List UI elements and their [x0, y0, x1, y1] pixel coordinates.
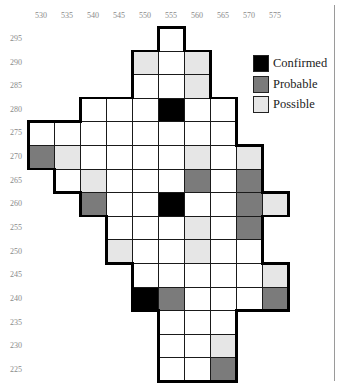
grid-cell — [184, 192, 211, 217]
grid-cell — [184, 239, 211, 264]
grid-cell — [210, 310, 237, 335]
grid-cell — [210, 263, 237, 288]
grid-cell — [210, 145, 237, 170]
grid-cell — [106, 169, 133, 194]
y-label: 275 — [4, 128, 28, 138]
y-label: 285 — [4, 81, 28, 91]
grid-cell — [132, 51, 159, 76]
grid-cell — [158, 334, 185, 359]
grid-cell — [184, 145, 211, 170]
confirmed-swatch-icon — [253, 55, 269, 72]
outline-segment — [131, 286, 134, 312]
outline-segment — [235, 120, 238, 146]
y-label: 265 — [4, 176, 28, 186]
outline-segment — [235, 309, 238, 335]
grid-cell — [54, 145, 81, 170]
outline-segment — [79, 215, 108, 218]
grid-cell — [210, 357, 237, 382]
grid-cell — [80, 192, 107, 217]
x-label: 550 — [132, 11, 158, 21]
outline-segment — [183, 50, 212, 53]
grid-cell — [158, 145, 185, 170]
x-label: 575 — [262, 11, 288, 21]
grid-cell — [158, 121, 185, 146]
x-label: 540 — [80, 11, 106, 21]
grid-cell — [132, 121, 159, 146]
outline-segment — [287, 286, 290, 312]
grid-cell — [210, 287, 237, 312]
outline-segment — [27, 120, 30, 146]
outline-segment — [209, 380, 238, 383]
outline-segment — [261, 168, 264, 194]
outline-segment — [261, 262, 290, 265]
grid-cell — [210, 192, 237, 217]
y-label: 250 — [4, 247, 28, 257]
outline-segment — [157, 26, 160, 52]
outline-segment — [105, 97, 134, 100]
x-label: 570 — [236, 11, 262, 21]
grid-cell — [262, 192, 289, 217]
grid-cell — [184, 121, 211, 146]
outline-segment — [235, 309, 264, 312]
grid-cell — [158, 357, 185, 382]
grid-cell — [184, 334, 211, 359]
grid-cell — [210, 216, 237, 241]
grid-cell — [184, 51, 211, 76]
grid-cell — [54, 121, 81, 146]
grid-cell — [184, 216, 211, 241]
y-label: 225 — [4, 365, 28, 375]
outline-segment — [235, 356, 238, 382]
grid-cell — [236, 239, 263, 264]
outline-segment — [287, 191, 290, 217]
grid-cell — [106, 216, 133, 241]
outline-segment — [79, 97, 108, 100]
probable-swatch-icon — [253, 76, 269, 93]
possible-swatch-icon — [253, 96, 269, 113]
y-label: 255 — [4, 223, 28, 233]
grid-cell — [106, 121, 133, 146]
grid-cell — [158, 310, 185, 335]
outline-segment — [27, 144, 30, 170]
outline-segment — [235, 97, 238, 123]
x-label: 560 — [184, 11, 210, 21]
grid-cell — [28, 121, 55, 146]
grid-cell — [132, 263, 159, 288]
grid-cell — [158, 239, 185, 264]
y-label: 240 — [4, 294, 28, 304]
outline-segment — [209, 73, 212, 99]
grid-cell — [184, 310, 211, 335]
grid-cell — [210, 239, 237, 264]
outline-segment — [131, 50, 160, 53]
outline-segment — [27, 168, 56, 171]
outline-segment — [131, 73, 134, 99]
grid-cell — [236, 263, 263, 288]
grid-cell — [158, 192, 185, 217]
grid-cell — [132, 239, 159, 264]
outline-segment — [131, 50, 134, 76]
grid-cell — [106, 145, 133, 170]
y-label: 295 — [4, 34, 28, 44]
outline-segment — [105, 238, 108, 264]
grid-cell — [80, 98, 107, 123]
x-label: 545 — [106, 11, 132, 21]
outline-segment — [157, 356, 160, 382]
outline-segment — [53, 191, 82, 194]
grid-cell — [158, 98, 185, 123]
grid-cell — [132, 169, 159, 194]
outline-segment — [261, 191, 290, 194]
outline-segment — [183, 380, 212, 383]
grid-cell — [236, 192, 263, 217]
grid-cell — [236, 216, 263, 241]
outline-segment — [131, 262, 134, 288]
grid-cell — [210, 334, 237, 359]
legend-label: Confirmed — [273, 56, 327, 71]
grid-cell — [80, 121, 107, 146]
grid-cell — [184, 287, 211, 312]
grid-cell — [158, 51, 185, 76]
grid-cell — [210, 98, 237, 123]
outline-segment — [157, 380, 186, 383]
legend-label: Probable — [273, 77, 317, 92]
legend-item-probable: Probable — [253, 76, 333, 96]
x-label: 565 — [210, 11, 236, 21]
grid-cell — [158, 74, 185, 99]
